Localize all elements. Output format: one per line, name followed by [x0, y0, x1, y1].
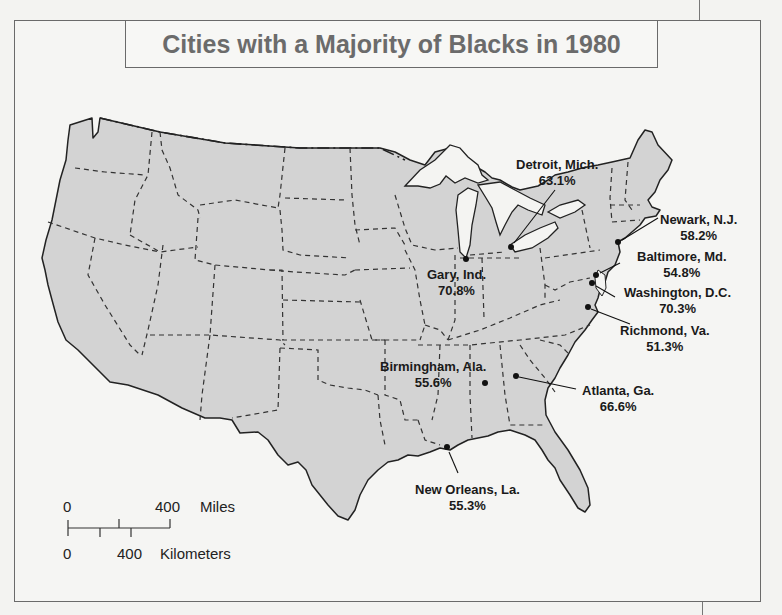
map-title: Cities with a Majority of Blacks in 1980: [162, 30, 620, 59]
city-pct: 51.3%: [620, 339, 710, 355]
city-name: New Orleans, La.: [415, 482, 520, 498]
scale-km-max: 400: [117, 545, 142, 562]
label-birmingham: Birmingham, Ala. 55.6%: [380, 359, 486, 391]
scale-miles-zero: 0: [63, 498, 71, 515]
scale-miles-max: 400: [155, 498, 180, 515]
city-pct: 54.8%: [637, 265, 727, 281]
city-dot-gary: [463, 256, 469, 262]
city-pct: 66.6%: [582, 399, 654, 415]
city-name: Gary, Ind.: [427, 267, 486, 283]
city-dot-newark: [615, 239, 621, 245]
label-detroit: Detroit, Mich. 63.1%: [516, 157, 598, 189]
city-dot-washington: [589, 280, 595, 286]
city-dot-atlanta: [513, 373, 519, 379]
city-pct: 55.3%: [415, 498, 520, 514]
scale-miles-unit: Miles: [200, 498, 235, 515]
title-box: Cities with a Majority of Blacks in 1980: [125, 20, 658, 68]
city-dot-richmond: [585, 304, 591, 310]
city-dot-new-orleans: [444, 444, 450, 450]
label-newark: Newark, N.J. 58.2%: [660, 212, 737, 244]
scale-km-unit: Kilometers: [160, 545, 231, 562]
city-pct: 70.3%: [624, 301, 731, 317]
city-dot-baltimore: [593, 272, 599, 278]
city-name: Baltimore, Md.: [637, 249, 727, 265]
city-pct: 55.6%: [380, 375, 486, 391]
scale-km-zero: 0: [63, 545, 71, 562]
label-new-orleans: New Orleans, La. 55.3%: [415, 482, 520, 514]
label-washington: Washington, D.C. 70.3%: [624, 285, 731, 317]
city-name: Washington, D.C.: [624, 285, 731, 301]
label-gary: Gary, Ind. 70.8%: [427, 267, 486, 299]
label-baltimore: Baltimore, Md. 54.8%: [637, 249, 727, 281]
label-atlanta: Atlanta, Ga. 66.6%: [582, 383, 654, 415]
city-name: Richmond, Va.: [620, 323, 710, 339]
city-pct: 63.1%: [516, 173, 598, 189]
city-dot-detroit: [508, 244, 514, 250]
city-name: Atlanta, Ga.: [582, 383, 654, 399]
city-pct: 70.8%: [427, 283, 486, 299]
city-name: Newark, N.J.: [660, 212, 737, 228]
city-name: Birmingham, Ala.: [380, 359, 486, 375]
label-richmond: Richmond, Va. 51.3%: [620, 323, 710, 355]
city-pct: 58.2%: [660, 228, 737, 244]
city-name: Detroit, Mich.: [516, 157, 598, 173]
scale-bar: [68, 519, 170, 537]
